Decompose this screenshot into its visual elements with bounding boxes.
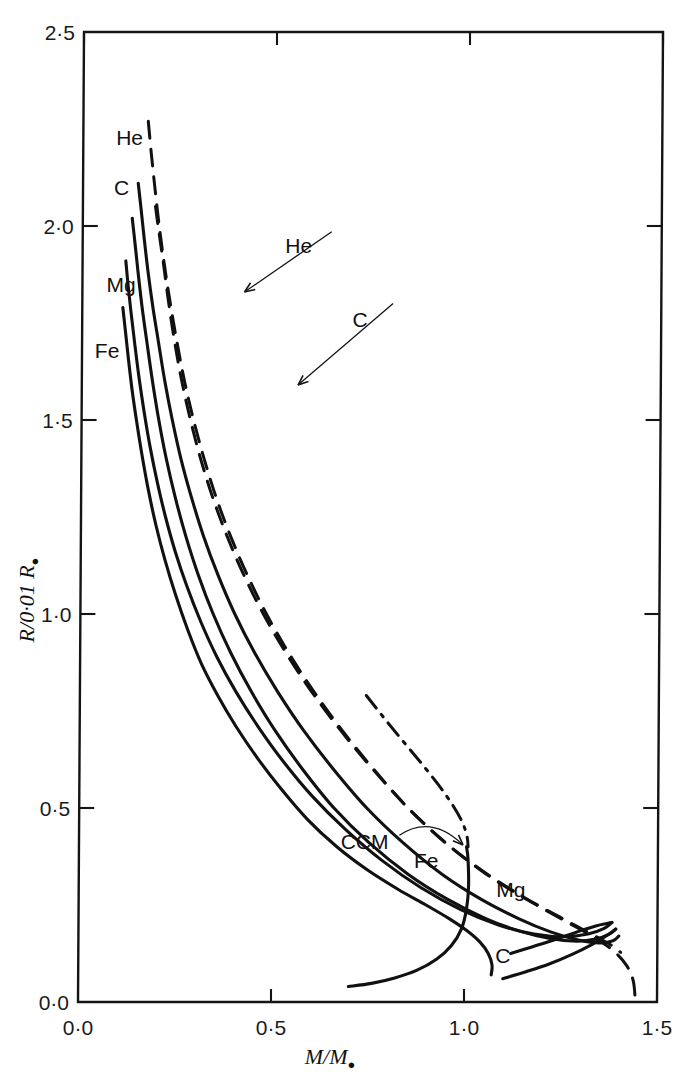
y-tick-label: 0·0: [39, 991, 69, 1014]
x-tick-label: 0·0: [63, 1016, 93, 1039]
curve-label-he: He: [116, 126, 143, 149]
radius-mass-relation-chart: 0·00·51·01·5 0·00·51·01·52·02·5 HeHeCCCM…: [0, 0, 687, 1079]
curve-label-ccm: CCM: [341, 830, 389, 853]
axis-title-text: R/0·01 R: [14, 565, 39, 644]
y-tick-label: 2·5: [45, 21, 75, 44]
sun-symbol-icon: ●: [27, 558, 42, 566]
figure-panel: 0·00·51·01·5 0·00·51·01·52·02·5 HeHeCCCM…: [0, 0, 687, 1079]
x-tick-label: 0·5: [256, 1016, 286, 1039]
curve-label-c: C: [495, 944, 510, 967]
x-tick-label: 1·0: [449, 1016, 479, 1039]
curve-label-he: He: [285, 234, 312, 257]
y-tick-label: 2·0: [43, 215, 73, 238]
curve-label-mg: Mg: [106, 273, 135, 296]
y-tick-label: 0·5: [40, 797, 70, 820]
curve-label-mg: Mg: [496, 878, 525, 901]
sun-symbol-icon: ●: [347, 1057, 355, 1072]
curve-label-c: C: [114, 176, 129, 199]
y-tick-label: 1·5: [42, 409, 72, 432]
y-tick-label: 1·0: [41, 603, 71, 626]
curve-label-fe: Fe: [95, 339, 120, 362]
x-tick-label: 1·5: [642, 1016, 672, 1039]
curve-label-fe: Fe: [414, 849, 439, 872]
axis-title-text: M/M: [304, 1044, 349, 1069]
chart-background: [0, 0, 687, 1079]
svg-text:R/0·01 R●: R/0·01 R●: [14, 558, 42, 644]
y-axis-title: R/0·01 R●: [14, 558, 42, 644]
curve-label-c: C: [353, 308, 368, 331]
